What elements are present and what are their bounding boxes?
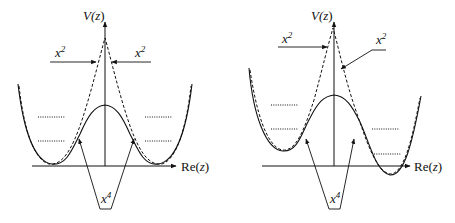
x4-arrow-left bbox=[79, 139, 100, 209]
energy-levels bbox=[271, 105, 401, 154]
x4-arrow-right bbox=[111, 139, 134, 209]
double-well-potential-figure: V(z) Re(z) x2 x2 x4 V(z) Re(z) bbox=[0, 0, 455, 223]
x4-arrow-right bbox=[340, 139, 354, 209]
x2-label-right: x2 bbox=[134, 44, 146, 60]
x2-arrow-right bbox=[341, 50, 386, 69]
x2-label-left: x2 bbox=[54, 44, 66, 60]
solid-quartic-curve bbox=[249, 68, 421, 175]
dashed-harmonic-curve bbox=[250, 28, 420, 174]
x4-label: x4 bbox=[329, 190, 341, 206]
y-axis-label: V(z) bbox=[83, 8, 105, 23]
panel-asymmetric: V(z) Re(z) x2 x2 x4 bbox=[249, 8, 442, 209]
y-axis-label: V(z) bbox=[311, 8, 333, 23]
x-axis-label: Re(z) bbox=[181, 159, 209, 174]
x2-label-left: x2 bbox=[281, 30, 293, 46]
x4-label: x4 bbox=[100, 190, 112, 206]
x2-label-right: x2 bbox=[375, 31, 387, 47]
panel-symmetric: V(z) Re(z) x2 x2 x4 bbox=[18, 8, 209, 209]
x-axis-label: Re(z) bbox=[414, 159, 442, 174]
x4-arrow-left bbox=[306, 139, 329, 209]
